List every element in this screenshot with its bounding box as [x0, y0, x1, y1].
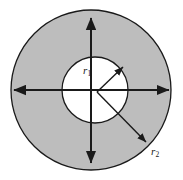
outer-radius-label-subscript: 2: [156, 150, 160, 159]
inner-radius-label-subscript: 1: [88, 69, 92, 78]
inner-radius-label-text: r: [83, 64, 87, 76]
inner-radius-label: r1: [83, 65, 91, 76]
annulus-figure: r1 r2: [0, 0, 183, 180]
outer-radius-label-text: r: [151, 145, 155, 157]
outer-radius-label: r2: [151, 146, 159, 157]
